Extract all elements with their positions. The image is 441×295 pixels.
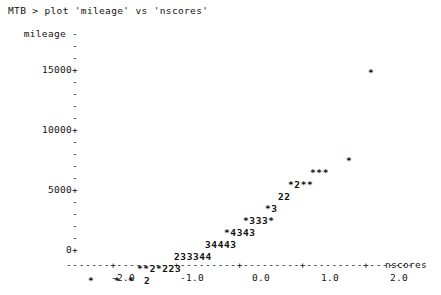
- y-axis-tick-minor: -: [72, 220, 78, 232]
- y-axis-tick-major: 10000+: [42, 124, 78, 136]
- y-axis-tick-major: 5000+: [48, 184, 78, 196]
- y-axis-tick-minor: -: [72, 136, 78, 148]
- y-axis-tick-minor: -: [72, 208, 78, 220]
- y-axis-tick-minor: -: [72, 88, 78, 100]
- y-axis-tick-minor: -: [72, 40, 78, 52]
- y-axis-tick-minor: -: [72, 100, 78, 112]
- data-point-group: *: [88, 275, 94, 287]
- y-axis-tick-major: 15000+: [42, 64, 78, 76]
- x-axis-tick-label: 2.0: [390, 272, 408, 283]
- terminal-command-line: MTB > plot 'mileage' vs 'nscores': [8, 5, 208, 16]
- data-point-group: *: [346, 155, 352, 167]
- y-axis-tick-minor: -: [72, 76, 78, 88]
- y-axis-tick-major: 0+: [66, 244, 78, 256]
- data-point-group: 34443: [205, 239, 237, 251]
- data-point-group: *2**: [288, 179, 313, 191]
- data-point-group: *4343: [224, 227, 256, 239]
- data-point-group: *333*: [243, 215, 275, 227]
- y-axis-tick-minor: -: [72, 160, 78, 172]
- data-point-group: ***: [310, 167, 329, 179]
- data-point-group: *: [368, 67, 374, 79]
- y-axis-tick-minor: -: [72, 112, 78, 124]
- x-axis-tick-label: 1.0: [321, 272, 339, 283]
- x-axis-line: -------+---------+---------+---------+--…: [66, 260, 414, 270]
- data-point-group: *3: [265, 203, 278, 215]
- y-axis-tick-minor: -: [72, 196, 78, 208]
- y-axis-title: mileage -: [24, 28, 78, 40]
- data-point-group: 2: [144, 275, 150, 287]
- y-axis-tick-minor: -: [72, 52, 78, 64]
- x-axis-tick-label: 0.0: [252, 272, 270, 283]
- character-scatter-plot: mileage ---15000+----10000+----5000+----…: [0, 28, 441, 288]
- x-axis-title: nscores: [385, 260, 427, 270]
- y-axis-tick-minor: -: [72, 172, 78, 184]
- y-axis-tick-minor: -: [72, 232, 78, 244]
- data-point-group: 22: [278, 191, 291, 203]
- x-axis-tick-label: -1.0: [180, 272, 204, 283]
- x-axis-tick-label: -2.0: [111, 272, 135, 283]
- y-axis-tick-minor: -: [72, 148, 78, 160]
